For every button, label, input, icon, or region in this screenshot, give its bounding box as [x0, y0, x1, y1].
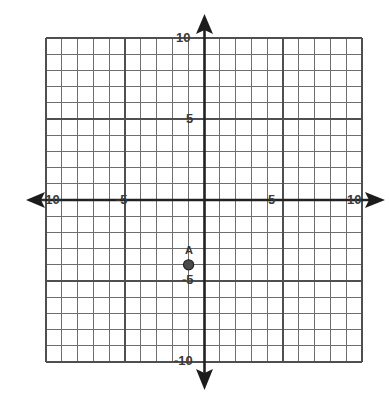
- coordinate-grid-figure: -10 -5 5 10 10 5 -5 -10 A: [0, 0, 389, 402]
- x-tick-label-pos-10: 10: [347, 193, 361, 206]
- x-tick-label-neg-5: -5: [116, 193, 128, 206]
- y-tick-label-pos-10: 10: [176, 31, 190, 44]
- plotted-point-a[interactable]: [184, 260, 194, 270]
- x-tick-label-neg-10: -10: [41, 193, 60, 206]
- point-label-a: A: [185, 245, 193, 256]
- x-tick-label-pos-5: 5: [268, 193, 275, 206]
- y-tick-label-pos-5: 5: [186, 112, 193, 125]
- y-tick-label-neg-5: -5: [182, 273, 194, 286]
- y-tick-label-neg-10: -10: [174, 354, 193, 367]
